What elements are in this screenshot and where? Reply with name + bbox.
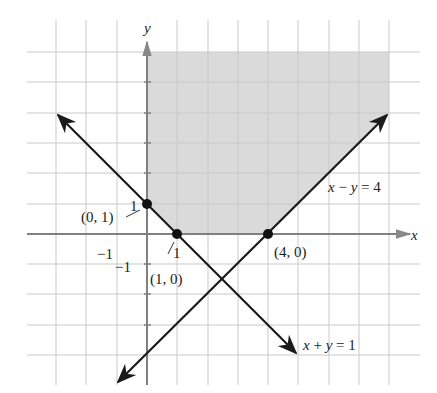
tick-y-1: 1 [130,198,138,214]
tick-x-neg1: −1 [97,246,113,262]
point-label-1-0: (1, 0) [150,271,183,288]
tick-y-neg1: −1 [115,259,131,275]
point-0-1 [142,199,152,209]
point-4-0 [263,229,273,239]
equation-x-minus-y-eq-4: x − y = 4 [327,179,381,195]
point-label-0-1: (0, 1) [81,209,114,226]
point-label-4-0: (4, 0) [274,244,307,261]
point-1-0 [172,229,182,239]
tick-x-1: 1 [173,245,181,261]
graph-canvas: y x 1 −1 −1 1 (0, 1) (1, 0) (4, 0) x − y… [0,0,437,393]
equation-x-plus-y-eq-1: x + y = 1 [302,337,356,353]
x-axis-label: x [410,227,418,243]
y-axis-label: y [142,20,151,36]
